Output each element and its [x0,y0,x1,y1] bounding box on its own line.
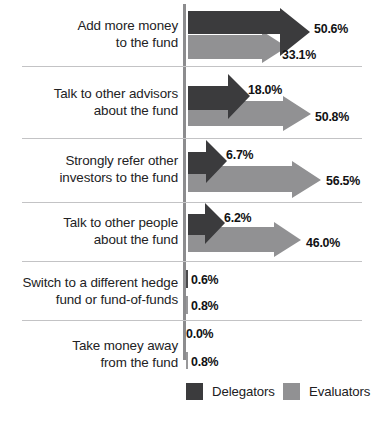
category-label-line2: about the fund [8,103,178,120]
category-label-line2: to the fund [8,35,178,52]
category-label-line1: Add more money [8,18,178,35]
value-delegators-row6: 0.0% [186,327,213,341]
value-delegators-row4: 6.2% [224,211,251,225]
category-label-line2: from the fund [8,355,178,372]
category-label-line2: about the fund [8,232,178,249]
value-delegators-row3: 6.7% [226,148,253,162]
chart-row: Talk to other people about the fund [0,202,374,261]
category-label: Talk to other people about the fund [8,215,178,248]
value-delegators-row1: 50.6% [314,22,348,36]
legend-item-delegators: Delegators [186,383,275,400]
hedge-fund-actions-chart: Add more money to the fund 50.6% 33.1% T… [0,0,374,422]
category-label-line1: Switch to a different hedge [8,275,178,292]
category-label: Take money away from the fund [8,338,178,371]
category-label: Switch to a different hedge fund or fund… [8,275,178,308]
legend-swatch-evaluators-icon [283,383,300,400]
legend-label-evaluators: Evaluators [309,384,370,399]
category-label-line1: Talk to other advisors [8,86,178,103]
bar-evaluators-row5 [186,296,188,314]
bar-delegators-row5 [186,270,188,288]
value-evaluators-row4: 46.0% [306,236,340,250]
category-label: Add more money to the fund [8,18,178,51]
category-label-line1: Strongly refer other [8,153,178,170]
value-evaluators-row3: 56.5% [326,174,360,188]
value-delegators-row2: 18.0% [248,83,282,97]
legend-swatch-delegators-icon [186,383,203,400]
legend-label-delegators: Delegators [212,384,275,399]
category-label: Talk to other advisors about the fund [8,86,178,119]
chart-legend: Delegators Evaluators [0,378,374,408]
category-label-line2: fund or fund-of-funds [8,292,178,309]
value-evaluators-row1: 33.1% [282,48,316,62]
value-evaluators-row5: 0.8% [191,299,218,313]
value-delegators-row5: 0.6% [191,273,218,287]
value-evaluators-row6: 0.8% [191,355,218,369]
category-label: Strongly refer other investors to the fu… [8,153,178,186]
bar-delegators-row2 [188,74,251,120]
category-label-line1: Talk to other people [8,215,178,232]
chart-plot-area: Add more money to the fund 50.6% 33.1% T… [0,0,374,370]
chart-row: Talk to other advisors about the fund [0,66,374,138]
bar-evaluators-row6 [186,352,188,369]
value-evaluators-row2: 50.8% [315,110,349,124]
bar-delegators-row4 [188,203,226,245]
category-label-line1: Take money away [8,338,178,355]
legend-item-evaluators: Evaluators [283,383,370,400]
bar-delegators-row3 [188,140,228,184]
category-label-line2: investors to the fund [8,170,178,187]
